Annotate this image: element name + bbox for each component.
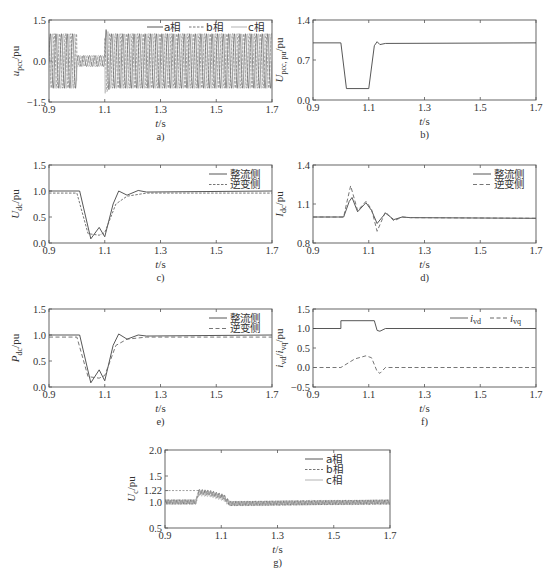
x-tick-label: 1.7: [265, 245, 278, 256]
panel-e: 0.91.11.31.51.71.51.00.50.0Pdc/put/se)整流…: [9, 304, 279, 429]
y-tick-label: 0.5: [149, 523, 162, 534]
legend-item: c相: [248, 21, 264, 33]
y-axis-label: Udc/pu: [9, 189, 24, 219]
legend-item: ivd: [470, 312, 481, 326]
x-axis-label: t/s: [419, 115, 429, 127]
panel-caption: f): [421, 416, 428, 428]
x-axis-label: t/s: [419, 258, 429, 270]
y-tick-label: 0.0: [33, 56, 46, 67]
x-tick-label: 1.7: [383, 530, 396, 541]
y-tick-label: 0.0: [297, 362, 310, 373]
x-tick-label: 1.3: [154, 245, 167, 256]
series-line: [49, 334, 272, 383]
y-tick-label: 1.5: [33, 304, 46, 315]
x-tick-label: 1.7: [529, 389, 542, 400]
y-tick-label: 1.5: [33, 160, 46, 171]
x-axis-label: t/s: [419, 402, 429, 414]
x-tick-label: 1.3: [418, 389, 431, 400]
legend-item: 逆变侧: [230, 322, 260, 334]
x-tick-label: 1.7: [529, 102, 542, 113]
y-tick-label: 0.0: [297, 95, 310, 106]
x-tick-label: 1.3: [271, 530, 284, 541]
y-tick-label: 1.4: [297, 160, 311, 171]
series-line: [313, 356, 536, 374]
x-tick-label: 1.3: [418, 245, 431, 256]
y-tick-label: 0.5: [33, 356, 46, 367]
y-axis-label: Idc/pu: [273, 191, 288, 218]
x-axis-label: t/s: [155, 117, 165, 129]
panel-caption: a): [156, 131, 165, 143]
y-tick-label: 1.5: [33, 15, 46, 26]
series-line: [49, 337, 272, 378]
y-tick-label: 1.5: [149, 471, 162, 482]
y-axis-label: Upcc, pu/pu: [273, 37, 288, 83]
y-axis-label: upcc/pu: [9, 45, 24, 76]
panel-f: 0.91.11.31.51.71.51.00.50.0−0.5ivd/ivq/p…: [273, 304, 543, 429]
x-axis-label: t/s: [155, 258, 165, 270]
y-axis-label: Pdc/pu: [9, 333, 24, 363]
x-tick-label: 1.3: [154, 389, 167, 400]
panel-c: 0.91.11.31.51.71.51.00.50.0Udc/put/sc)整流…: [9, 160, 279, 285]
figure-canvas: 0.91.11.31.51.71.50.0−1.5upcc/put/sa)a相b…: [0, 0, 553, 582]
y-tick-label: 0.0: [33, 382, 46, 393]
legend-item: 逆变侧: [494, 178, 524, 190]
x-tick-label: 1.5: [210, 104, 223, 115]
y-axis-label: ivd/ivq/pu: [273, 328, 288, 368]
legend-item: c相: [326, 474, 342, 486]
panel-caption: b): [420, 129, 429, 141]
y-tick-label: 1.0: [33, 186, 46, 197]
panel-caption: g): [273, 557, 282, 569]
series-line: [313, 42, 536, 89]
plot-area: [49, 30, 272, 94]
series-line: [49, 193, 272, 235]
legend-item: 逆变侧: [230, 178, 260, 190]
plot-frame: [165, 450, 390, 528]
x-tick-label: 1.5: [210, 245, 223, 256]
y-tick-label: 1.0: [297, 323, 310, 334]
x-tick-label: 1.1: [362, 102, 375, 113]
legend-item: ivq: [510, 312, 521, 326]
x-tick-label: 1.7: [265, 104, 278, 115]
plot-area: [49, 334, 272, 383]
panel-b: 0.91.11.31.51.71.40.70.0Upcc, pu/put/sb): [273, 15, 543, 142]
panel-d: 0.91.11.31.51.71.41.10.8Idc/put/sd)整流侧逆变…: [273, 160, 543, 285]
x-tick-label: 1.7: [529, 245, 542, 256]
legend: 整流侧逆变侧: [209, 168, 260, 191]
series-line: [313, 198, 536, 224]
y-tick-label: 0.5: [297, 343, 310, 354]
x-tick-label: 1.1: [362, 389, 375, 400]
x-tick-label: 1.1: [215, 530, 228, 541]
x-tick-label: 1.3: [418, 102, 431, 113]
x-tick-label: 1.5: [327, 530, 340, 541]
y-tick-label: 1.0: [33, 330, 46, 341]
y-tick-label: 2.0: [149, 445, 162, 456]
y-tick-label: 1.4: [297, 15, 311, 26]
legend: a相b相c相: [147, 21, 264, 33]
x-tick-label: 1.1: [98, 245, 111, 256]
panel-caption: d): [420, 272, 429, 284]
plot-area: [313, 186, 536, 232]
panel-caption: e): [156, 416, 165, 428]
series-line: [313, 321, 536, 332]
y-tick-label: −1.5: [27, 97, 46, 108]
x-tick-label: 1.5: [474, 102, 487, 113]
plot-area: [165, 489, 390, 506]
x-tick-label: 1.7: [265, 389, 278, 400]
plot-area: [313, 321, 536, 374]
x-tick-label: 1.1: [362, 245, 375, 256]
panel-g: 0.91.11.31.51.72.01.51.221.00.5Uc/put/sg…: [125, 445, 397, 570]
x-tick-label: 1.1: [98, 104, 111, 115]
x-tick-label: 1.1: [98, 389, 111, 400]
x-axis-label: t/s: [155, 402, 165, 414]
y-tick-label: 1.5: [297, 304, 310, 315]
legend: a相b相c相: [305, 453, 343, 486]
panel-a: 0.91.11.31.51.71.50.0−1.5upcc/put/sa)a相b…: [9, 15, 279, 144]
legend: 整流侧逆变侧: [209, 312, 260, 335]
x-axis-label: t/s: [272, 543, 282, 555]
x-tick-label: 1.5: [210, 389, 223, 400]
legend: 整流侧逆变侧: [473, 168, 524, 191]
y-axis-label: Uc/pu: [125, 476, 140, 502]
legend-item: a相: [164, 21, 180, 33]
y-tick-label: 1.0: [149, 497, 162, 508]
x-tick-label: 1.3: [154, 104, 167, 115]
